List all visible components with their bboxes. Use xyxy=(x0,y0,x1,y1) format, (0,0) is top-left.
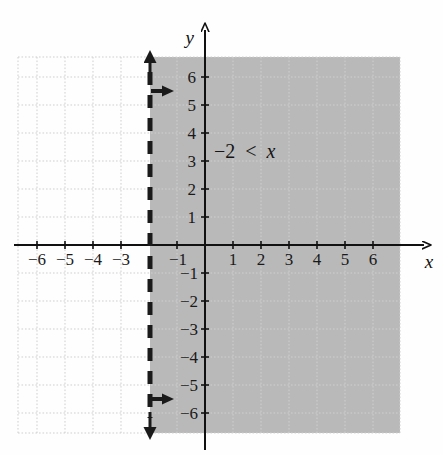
x-axis-label: x xyxy=(424,251,434,272)
y-tick-label: −3 xyxy=(180,320,198,339)
y-tick-label: −2 xyxy=(180,292,198,311)
y-tick-label: 2 xyxy=(188,180,197,199)
inequality-relation: < xyxy=(245,140,256,162)
y-tick-label: −1 xyxy=(180,264,198,283)
x-tick-label: 4 xyxy=(313,250,322,269)
x-tick-label: 3 xyxy=(285,250,294,269)
y-tick-label: −5 xyxy=(180,376,198,395)
x-tick-label: −6 xyxy=(28,250,46,269)
svg-text:−2 < x: −2 < x xyxy=(214,140,276,162)
x-tick-label: 6 xyxy=(369,250,378,269)
inequality-left-operand: −2 xyxy=(214,140,235,162)
x-tick-label: −5 xyxy=(56,250,74,269)
inequality-right-operand: x xyxy=(266,140,276,162)
x-tick-label: −3 xyxy=(112,250,130,269)
x-tick-label: −4 xyxy=(84,250,103,269)
y-tick-label: 1 xyxy=(188,208,197,227)
x-tick-label: 5 xyxy=(341,250,350,269)
inequality-annotation: −2 < x xyxy=(214,140,276,162)
y-tick-label: 6 xyxy=(188,68,197,87)
y-tick-label: −4 xyxy=(180,348,199,367)
y-axis-label: y xyxy=(184,27,195,48)
y-tick-label: 3 xyxy=(188,152,197,171)
y-tick-label: 5 xyxy=(188,96,197,115)
x-tick-label: 2 xyxy=(257,250,266,269)
y-tick-label: −6 xyxy=(180,404,198,423)
inequality-graph-figure: −6 −5 −4 −3 −1 1 2 3 4 5 6 6 5 4 3 2 1 −… xyxy=(0,0,443,455)
y-tick-label: 4 xyxy=(188,124,197,143)
coordinate-plane: −6 −5 −4 −3 −1 1 2 3 4 5 6 6 5 4 3 2 1 −… xyxy=(0,0,443,455)
x-tick-label: 1 xyxy=(229,250,238,269)
